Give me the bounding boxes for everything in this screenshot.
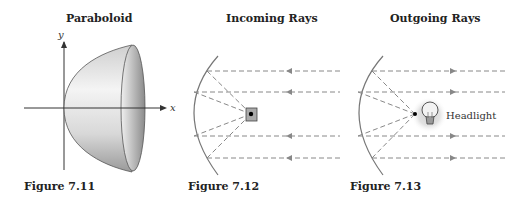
mirror-curve bbox=[194, 56, 218, 175]
mirror-curve bbox=[359, 56, 383, 175]
incoming-rays-diagram bbox=[194, 56, 340, 175]
arrow-right-icon bbox=[450, 68, 456, 74]
arrow-left-icon bbox=[286, 155, 292, 161]
diagram-canvas: y x bbox=[0, 0, 526, 203]
y-axis-label: y bbox=[57, 29, 64, 40]
arrow-right-icon bbox=[450, 133, 456, 139]
headlight-label: Headlight bbox=[446, 110, 496, 121]
x-axis-label: x bbox=[170, 102, 176, 113]
focus-point bbox=[249, 112, 253, 116]
outgoing-rays-diagram: Headlight bbox=[358, 56, 505, 175]
paraboloid-diagram: y x bbox=[24, 29, 176, 172]
arrow-left-icon bbox=[286, 68, 292, 74]
arrow-right-icon bbox=[450, 89, 456, 95]
arrow-left-icon bbox=[286, 89, 292, 95]
focus-point bbox=[413, 112, 417, 116]
y-axis-arrow-icon bbox=[61, 41, 67, 48]
x-axis-arrow-icon bbox=[160, 105, 167, 111]
arrow-right-icon bbox=[450, 155, 456, 161]
arrow-left-icon bbox=[286, 133, 292, 139]
